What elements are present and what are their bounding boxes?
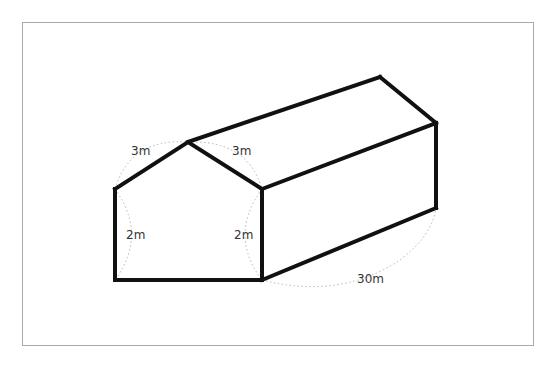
label-roof-right: 3m [232, 144, 251, 158]
front-gable-outline [115, 142, 262, 280]
label-wall-right: 2m [234, 228, 253, 242]
back-roof-slope-edge [380, 77, 436, 123]
base-edge [262, 208, 436, 280]
label-roof-left: 3m [131, 144, 150, 158]
label-wall-left: 2m [126, 228, 145, 242]
building-diagram: 3m 3m 2m 2m 30m [0, 0, 557, 365]
label-length: 30m [357, 272, 384, 286]
eave-edge [262, 123, 436, 189]
roof-ridge-edge [188, 77, 380, 142]
